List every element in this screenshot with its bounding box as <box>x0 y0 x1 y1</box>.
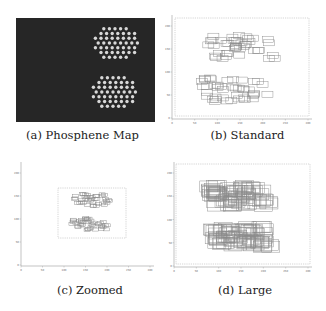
svg-text:150: 150 <box>167 195 172 198</box>
svg-text:0: 0 <box>173 270 175 273</box>
large-rect-plot: 050100150200250300050100150200 <box>0 0 326 311</box>
caption-d: (d) Large <box>190 283 300 297</box>
svg-text:100: 100 <box>216 270 221 273</box>
svg-text:150: 150 <box>239 270 244 273</box>
svg-text:50: 50 <box>195 270 199 273</box>
caption-a: (a) Phosphene Map <box>20 128 145 142</box>
receptive-field-rect <box>254 200 272 211</box>
caption-c: (c) Zoomed <box>40 283 140 297</box>
svg-text:200: 200 <box>167 172 172 175</box>
svg-text:100: 100 <box>167 219 172 222</box>
svg-text:0: 0 <box>170 265 172 268</box>
svg-text:200: 200 <box>261 270 266 273</box>
svg-text:250: 250 <box>283 270 288 273</box>
svg-text:50: 50 <box>169 242 173 245</box>
svg-text:300: 300 <box>306 270 311 273</box>
caption-b: (b) Standard <box>190 128 305 142</box>
